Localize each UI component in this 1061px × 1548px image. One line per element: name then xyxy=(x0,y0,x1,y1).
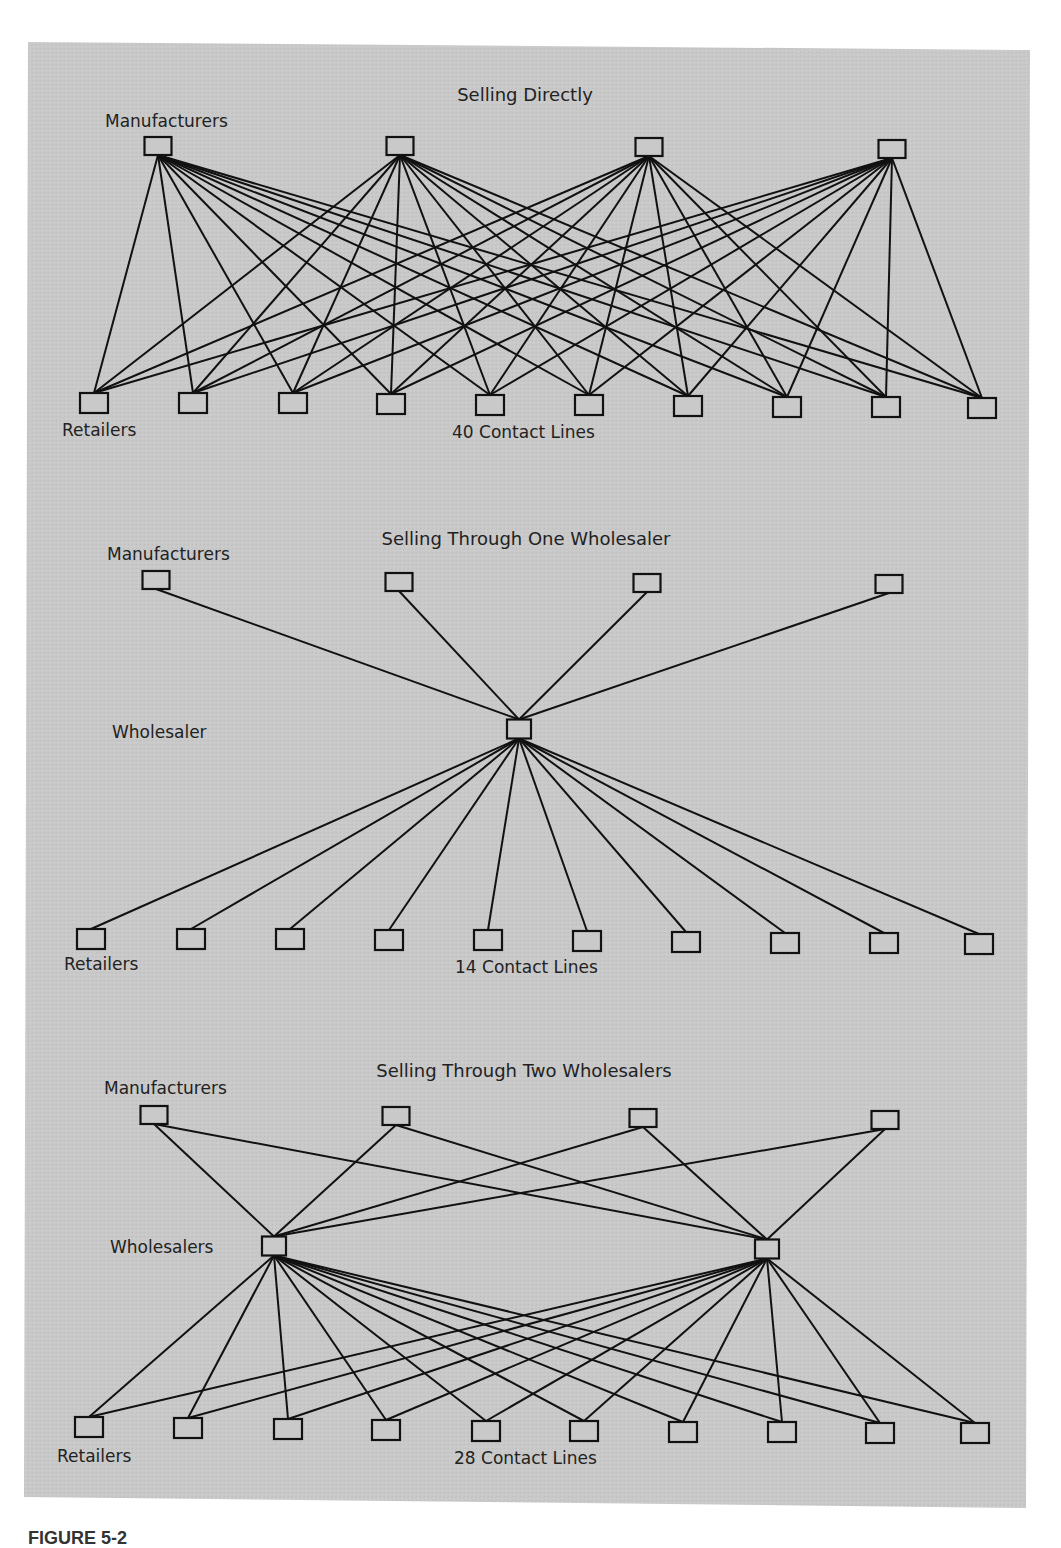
retailer-box xyxy=(674,396,702,416)
retailer-box xyxy=(669,1422,697,1442)
manufacturer-box xyxy=(383,1107,410,1125)
retailers-label: Retailers xyxy=(57,1446,131,1466)
contact-lines-label: 28 Contact Lines xyxy=(454,1448,597,1468)
figure-caption: FIGURE 5-2 xyxy=(28,1528,127,1548)
manufacturer-box xyxy=(876,575,903,593)
manufacturer-box xyxy=(636,138,663,156)
retailer-box xyxy=(279,393,307,413)
retailer-box xyxy=(472,1421,500,1441)
wholesaler-box xyxy=(262,1237,286,1256)
manufacturer-box xyxy=(145,137,172,155)
wholesaler-box xyxy=(755,1240,779,1259)
retailer-box xyxy=(75,1417,103,1437)
retailer-box xyxy=(773,397,801,417)
retailer-box xyxy=(77,929,105,949)
retailer-box xyxy=(872,397,900,417)
retailer-box xyxy=(177,929,205,949)
wholesaler-label: Wholesaler xyxy=(112,722,207,742)
diagram-title: Selling Directly xyxy=(457,84,593,105)
retailer-box xyxy=(274,1419,302,1439)
manufacturer-box xyxy=(634,574,661,592)
retailer-box xyxy=(768,1422,796,1442)
manufacturer-box xyxy=(872,1111,899,1129)
manufacturer-box xyxy=(143,571,170,589)
manufacturer-box xyxy=(141,1106,168,1124)
manufacturers-label: Manufacturers xyxy=(104,1078,227,1098)
retailers-label: Retailers xyxy=(62,420,136,440)
retailers-label: Retailers xyxy=(64,954,138,974)
retailer-box xyxy=(474,930,502,950)
manufacturers-label: Manufacturers xyxy=(105,111,228,131)
diagram-title: Selling Through Two Wholesalers xyxy=(376,1060,671,1081)
manufacturer-box xyxy=(879,140,906,158)
retailer-box xyxy=(866,1423,894,1443)
retailer-box xyxy=(575,395,603,415)
retailer-box xyxy=(573,931,601,951)
retailer-box xyxy=(179,393,207,413)
manufacturer-box xyxy=(386,573,413,591)
wholesalers-label: Wholesalers xyxy=(110,1237,214,1257)
retailer-box xyxy=(771,933,799,953)
retailer-box xyxy=(375,930,403,950)
retailer-box xyxy=(174,1418,202,1438)
contact-lines-label: 14 Contact Lines xyxy=(455,957,598,977)
manufacturer-box xyxy=(387,137,414,155)
wholesaler-box xyxy=(507,720,531,739)
retailer-box xyxy=(276,929,304,949)
retailer-box xyxy=(968,398,996,418)
retailer-box xyxy=(80,393,108,413)
retailer-box xyxy=(965,934,993,954)
retailer-box xyxy=(377,394,405,414)
retailer-box xyxy=(372,1420,400,1440)
retailer-box xyxy=(870,933,898,953)
contact-lines-label: 40 Contact Lines xyxy=(452,422,595,442)
diagram-title: Selling Through One Wholesaler xyxy=(382,528,672,549)
retailer-box xyxy=(672,932,700,952)
retailer-box xyxy=(570,1421,598,1441)
retailer-box xyxy=(961,1423,989,1443)
retailer-box xyxy=(476,395,504,415)
manufacturer-box xyxy=(630,1109,657,1127)
manufacturers-label: Manufacturers xyxy=(107,544,230,564)
